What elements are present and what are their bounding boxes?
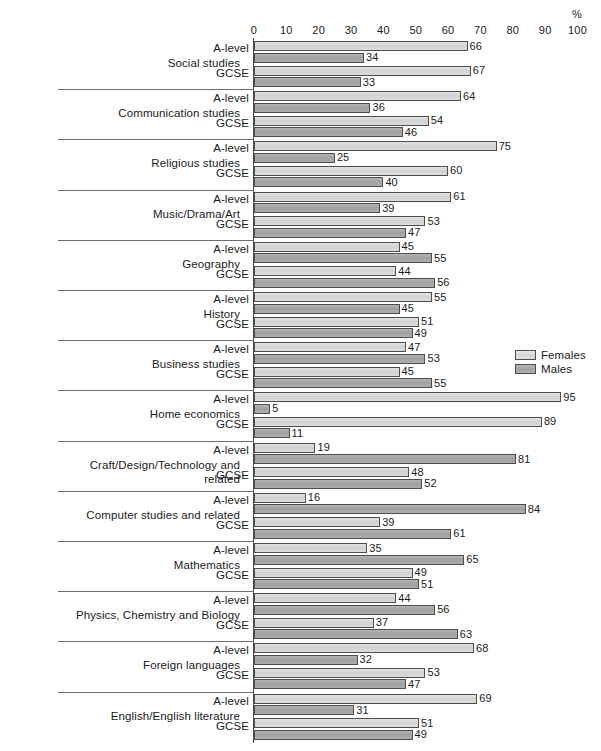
- bar-a-level-males: [254, 655, 358, 665]
- bar-gcse-males: [254, 127, 403, 137]
- bar-value-label: 44: [398, 266, 410, 277]
- bar-a-level-males: [254, 53, 364, 63]
- bar-a-level-males: [254, 203, 380, 213]
- group-separator: [58, 290, 254, 291]
- bar-gcse-males: [254, 529, 451, 539]
- qualification-label-a-level: A-level: [129, 193, 249, 205]
- bar-value-label: 32: [360, 654, 372, 665]
- bar-value-label: 56: [437, 277, 449, 288]
- bar-gcse-females: [254, 367, 400, 377]
- bar-value-label: 25: [337, 152, 349, 163]
- group-separator: [58, 692, 254, 693]
- qualification-label-a-level: A-level: [129, 293, 249, 305]
- qualification-label-gcse: GCSE: [129, 268, 249, 280]
- qualification-label-a-level: A-level: [129, 594, 249, 606]
- group-separator: [58, 491, 254, 492]
- bar-value-label: 35: [369, 543, 381, 554]
- bar-value-label: 33: [363, 77, 375, 88]
- bar-a-level-males: [254, 404, 270, 414]
- bar-a-level-males: [254, 555, 464, 565]
- bar-a-level-females: [254, 342, 406, 352]
- qualification-label-gcse: GCSE: [129, 117, 249, 129]
- bar-gcse-males: [254, 378, 432, 388]
- group-separator: [58, 139, 254, 140]
- bar-a-level-females: [254, 242, 400, 252]
- bar-value-label: 51: [421, 316, 433, 327]
- bar-value-label: 34: [366, 52, 378, 63]
- chart-group: Social studiesA-levelGCSE66346733: [0, 39, 601, 89]
- qualification-label-gcse: GCSE: [129, 368, 249, 380]
- bar-value-label: 47: [408, 342, 420, 353]
- bar-value-label: 5: [272, 403, 278, 414]
- bar-value-label: 44: [398, 593, 410, 604]
- qualification-label-gcse: GCSE: [129, 418, 249, 430]
- qualification-label-gcse: GCSE: [129, 318, 249, 330]
- bar-a-level-females: [254, 41, 468, 51]
- bar-a-level-males: [254, 504, 526, 514]
- bar-a-level-males: [254, 153, 335, 163]
- bar-gcse-females: [254, 517, 380, 527]
- bar-value-label: 39: [382, 203, 394, 214]
- bar-value-label: 60: [450, 165, 462, 176]
- qualification-label-a-level: A-level: [129, 343, 249, 355]
- qualification-label-a-level: A-level: [129, 243, 249, 255]
- legend-item-males: Males: [515, 363, 599, 376]
- chart-group: MathematicsA-levelGCSE35654951: [0, 541, 601, 591]
- qualification-label-gcse: GCSE: [129, 469, 249, 481]
- legend-label-males: Males: [541, 363, 572, 376]
- bar-value-label: 46: [405, 127, 417, 138]
- bar-gcse-males: [254, 278, 435, 288]
- bar-a-level-females: [254, 292, 432, 302]
- qualification-label-a-level: A-level: [129, 695, 249, 707]
- bar-value-label: 11: [292, 428, 304, 439]
- bar-a-level-males: [254, 304, 400, 314]
- x-axis-tick-labels: 0102030405060708090100: [0, 24, 601, 38]
- qualification-label-a-level: A-level: [129, 393, 249, 405]
- bar-value-label: 48: [411, 467, 423, 478]
- bar-gcse-females: [254, 417, 542, 427]
- bar-value-label: 49: [415, 328, 427, 339]
- bar-value-label: 49: [415, 567, 427, 578]
- bar-a-level-males: [254, 454, 516, 464]
- bar-a-level-females: [254, 141, 497, 151]
- bar-a-level-females: [254, 91, 461, 101]
- bar-value-label: 95: [563, 392, 575, 403]
- legend-label-females: Females: [541, 349, 586, 362]
- bar-gcse-females: [254, 166, 448, 176]
- qualification-label-gcse: GCSE: [129, 720, 249, 732]
- bar-value-label: 51: [421, 718, 433, 729]
- qualification-label-gcse: GCSE: [129, 569, 249, 581]
- bar-value-label: 55: [434, 292, 446, 303]
- bar-a-level-males: [254, 605, 435, 615]
- bar-value-label: 16: [308, 492, 320, 503]
- chart-group: Physics, Chemistry and BiologyA-levelGCS…: [0, 591, 601, 641]
- legend-swatch-females: [515, 350, 536, 360]
- bar-gcse-females: [254, 66, 471, 76]
- bar-value-label: 55: [434, 378, 446, 389]
- group-separator: [58, 340, 254, 341]
- qualification-label-gcse: GCSE: [129, 519, 249, 531]
- bar-value-label: 45: [402, 303, 414, 314]
- bar-value-label: 61: [453, 528, 465, 539]
- bar-a-level-females: [254, 392, 561, 402]
- group-separator: [58, 441, 254, 442]
- group-separator: [58, 390, 254, 391]
- group-separator: [58, 541, 254, 542]
- chart-group: English/English literatureA-levelGCSE693…: [0, 692, 601, 742]
- chart-group: Communication studiesA-levelGCSE64365446: [0, 89, 601, 139]
- bar-gcse-males: [254, 177, 383, 187]
- bar-gcse-females: [254, 266, 396, 276]
- bar-value-label: 37: [376, 617, 388, 628]
- bar-gcse-females: [254, 467, 409, 477]
- bar-value-label: 64: [463, 91, 475, 102]
- bar-gcse-females: [254, 618, 374, 628]
- bar-value-label: 63: [460, 629, 472, 640]
- bar-value-label: 65: [466, 554, 478, 565]
- bar-value-label: 55: [434, 253, 446, 264]
- bar-value-label: 68: [476, 643, 488, 654]
- bar-value-label: 31: [356, 705, 368, 716]
- legend-swatch-males: [515, 364, 536, 374]
- bar-a-level-females: [254, 643, 474, 653]
- bar-value-label: 45: [402, 241, 414, 252]
- bar-gcse-females: [254, 116, 429, 126]
